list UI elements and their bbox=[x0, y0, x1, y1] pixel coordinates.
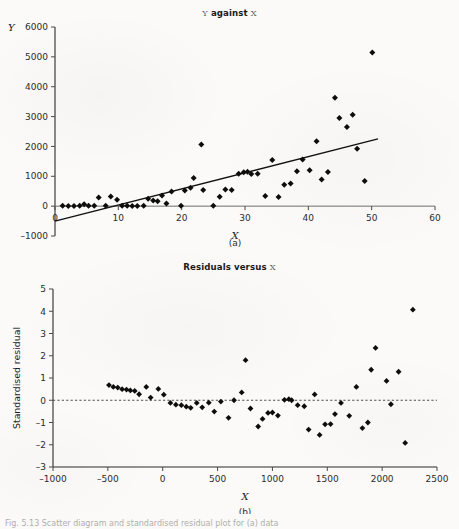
chart-a-y-tick-label: –1000 bbox=[21, 231, 49, 241]
chart-b-data-point bbox=[248, 406, 254, 412]
figure-caption: Fig. 5.13 Scatter diagram and standardis… bbox=[5, 519, 455, 529]
chart-b-data-point bbox=[332, 411, 338, 417]
chart-b-x-tick-label: –500 bbox=[97, 474, 119, 484]
chart-a-data-point bbox=[155, 198, 161, 204]
chart-a-data-point bbox=[129, 203, 135, 209]
chart-b-data-point bbox=[317, 432, 323, 438]
chart-b-y-tick-label: 4 bbox=[40, 307, 46, 317]
chart-a-data-point bbox=[332, 95, 338, 101]
chart-b-data-point bbox=[410, 307, 416, 313]
chart-b-data-point bbox=[188, 405, 194, 411]
chart-a-data-point bbox=[255, 171, 261, 177]
chart-b-data-point bbox=[373, 345, 379, 351]
chart-a-data-point bbox=[91, 203, 97, 209]
chart-b-data-point bbox=[353, 384, 359, 390]
chart-b-data-point bbox=[402, 440, 408, 446]
chart-b-x-tick-label: 2000 bbox=[371, 474, 394, 484]
chart-b-data-point bbox=[211, 409, 217, 415]
chart-b-y-tick-label: –2 bbox=[36, 440, 46, 450]
chart-b-data-point bbox=[306, 427, 312, 433]
chart-a-y-tick-label: 6000 bbox=[25, 22, 48, 32]
chart-b-y-axis-label: Standardised residual bbox=[11, 327, 22, 429]
chart-b-y-tick-label: –3 bbox=[36, 462, 46, 472]
chart-a-y-tick-label: 3000 bbox=[25, 112, 48, 122]
chart-b-x-axis-label: X bbox=[240, 491, 249, 502]
chart-a-data-point bbox=[288, 181, 294, 187]
chart-a-data-point bbox=[269, 157, 275, 163]
chart-b-data-point bbox=[365, 420, 371, 426]
chart-b-x-tick-label: 1500 bbox=[316, 474, 339, 484]
chart-b-data-point bbox=[173, 402, 179, 408]
chart-b-data-point bbox=[270, 410, 276, 416]
chart-b-data-point bbox=[312, 392, 318, 398]
chart-b-data-point bbox=[136, 391, 142, 397]
chart-b-data-point bbox=[282, 397, 288, 403]
chart-a-panel-letter: (a) bbox=[229, 238, 242, 248]
chart-a-data-point bbox=[217, 194, 223, 200]
chart-b-y-tick-label: 2 bbox=[40, 351, 46, 361]
chart-a-data-point bbox=[354, 146, 360, 152]
chart-b-data-point bbox=[226, 415, 232, 421]
chart-b-x-tick-label: 500 bbox=[209, 474, 226, 484]
chart-a-x-tick-label: 60 bbox=[429, 213, 441, 223]
chart-b-data-point bbox=[388, 401, 394, 407]
chart-b-y-tick-label: 3 bbox=[40, 329, 46, 339]
chart-a-data-point bbox=[350, 112, 356, 118]
chart-panel-a: Y against X 6000500040003000200010000–10… bbox=[0, 0, 459, 250]
chart-a-x-tick-label: 10 bbox=[113, 213, 125, 223]
chart-a-canvas: 6000500040003000200010000–10000102030405… bbox=[0, 0, 459, 250]
chart-b-data-point bbox=[295, 402, 301, 408]
chart-a-data-point bbox=[178, 203, 184, 209]
chart-b-data-point bbox=[346, 413, 352, 419]
chart-a-data-point bbox=[163, 200, 169, 206]
chart-a-data-point bbox=[319, 176, 325, 182]
chart-b-y-tick-label: –1 bbox=[36, 418, 46, 428]
chart-a-x-tick-label: 20 bbox=[176, 213, 188, 223]
chart-b-data-point bbox=[194, 400, 200, 406]
chart-a-data-point bbox=[96, 194, 102, 200]
chart-a-data-point bbox=[344, 124, 350, 130]
chart-b-data-point bbox=[199, 404, 205, 410]
chart-b-x-tick-label: 2500 bbox=[426, 474, 449, 484]
chart-a-data-point bbox=[307, 167, 313, 173]
chart-b-data-point bbox=[255, 424, 261, 430]
chart-b-data-point bbox=[206, 400, 212, 406]
chart-a-data-point bbox=[210, 203, 216, 209]
chart-a-y-tick-label: 5000 bbox=[25, 52, 48, 62]
chart-a-data-point bbox=[229, 187, 235, 193]
chart-a-data-point bbox=[65, 203, 71, 209]
chart-b-y-tick-label: 0 bbox=[40, 396, 46, 406]
chart-b-data-point bbox=[231, 397, 237, 403]
chart-a-data-point bbox=[325, 169, 331, 175]
chart-a-data-point bbox=[336, 115, 342, 121]
chart-b-data-point bbox=[260, 416, 266, 422]
chart-b-data-point bbox=[384, 378, 390, 384]
chart-a-data-point bbox=[236, 171, 242, 177]
chart-a-y-tick-label: 0 bbox=[42, 201, 48, 211]
chart-a-data-point bbox=[314, 138, 320, 144]
chart-a-data-point bbox=[276, 194, 282, 200]
chart-panel-b: Residuals versus X 543210–1–2–3–1000–500… bbox=[0, 262, 459, 514]
chart-b-canvas: 543210–1–2–3–1000–5000500100015002000250… bbox=[0, 262, 459, 514]
chart-b-data-point bbox=[338, 400, 344, 406]
chart-b-y-tick-label: 5 bbox=[40, 284, 46, 294]
chart-b-data-point bbox=[183, 404, 189, 410]
chart-b-data-point bbox=[143, 384, 149, 390]
chart-b-data-point bbox=[368, 367, 374, 373]
chart-b-y-tick-label: 1 bbox=[40, 373, 46, 383]
chart-a-y-axis-label: Y bbox=[8, 22, 16, 33]
chart-a-data-point bbox=[150, 197, 156, 203]
chart-a-data-point bbox=[77, 203, 83, 209]
chart-a-y-tick-label: 4000 bbox=[25, 82, 48, 92]
chart-b-data-point bbox=[155, 386, 161, 392]
chart-b-data-point bbox=[301, 403, 307, 409]
chart-b-data-point bbox=[396, 369, 402, 375]
chart-a-data-point bbox=[141, 203, 147, 209]
chart-b-x-tick-label: –1000 bbox=[39, 474, 67, 484]
chart-b-data-point bbox=[218, 399, 224, 405]
chart-b-data-point bbox=[178, 402, 184, 408]
chart-b-data-point bbox=[161, 392, 167, 398]
chart-b-data-point bbox=[275, 413, 281, 419]
chart-a-x-tick-label: 40 bbox=[303, 213, 315, 223]
chart-a-data-point bbox=[281, 182, 287, 188]
